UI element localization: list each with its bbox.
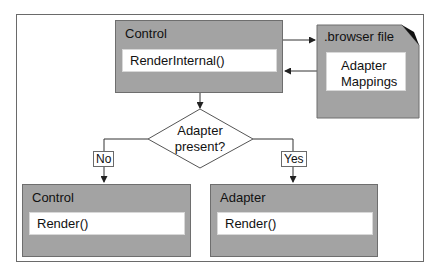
- render-internal-method: RenderInternal(): [122, 49, 277, 72]
- browser-file-title: .browser file: [324, 29, 394, 44]
- bottom-adapter-title: Adapter: [220, 190, 266, 205]
- bottom-control-box: Control Render(): [22, 184, 191, 257]
- yes-branch-label: Yes: [281, 151, 307, 167]
- control-render-method: Render(): [29, 212, 185, 235]
- decision-label: Adapter present?: [160, 123, 240, 155]
- adapter-mappings-box: Adapter Mappings: [326, 52, 406, 91]
- no-branch-label: No: [93, 151, 114, 167]
- decision-line2: present?: [160, 139, 240, 155]
- adapter-render-method: Render(): [217, 212, 373, 235]
- decision-line1: Adapter: [160, 123, 240, 139]
- bottom-control-title: Control: [32, 190, 74, 205]
- adapter-mappings-line1: Adapter: [341, 58, 405, 74]
- top-control-box: Control RenderInternal(): [115, 20, 283, 93]
- bottom-adapter-box: Adapter Render(): [210, 184, 378, 257]
- adapter-mappings-line2: Mappings: [341, 74, 405, 90]
- top-control-title: Control: [125, 26, 167, 41]
